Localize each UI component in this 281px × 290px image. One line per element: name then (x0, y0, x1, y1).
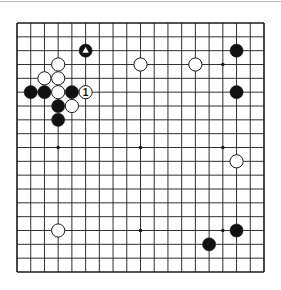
star-point (56, 146, 60, 150)
go-board: 1 (0, 0, 281, 290)
white-stone (52, 224, 65, 237)
white-stone (52, 58, 65, 71)
white-stone (52, 86, 65, 99)
star-point (221, 63, 225, 67)
white-stone (134, 58, 147, 71)
star-point (139, 146, 143, 150)
white-stone (38, 72, 51, 85)
white-stone (52, 72, 65, 85)
black-stone (230, 86, 243, 99)
white-stone: 1 (79, 86, 92, 99)
black-stone (230, 44, 243, 57)
star-point (139, 229, 143, 233)
star-point (221, 229, 225, 233)
white-stone (65, 99, 78, 112)
black-stone (230, 224, 243, 237)
move-number-label: 1 (83, 87, 89, 98)
black-stone (52, 99, 65, 112)
black-stone (52, 113, 65, 126)
black-stone (65, 86, 78, 99)
white-stone (189, 58, 202, 71)
black-stone (79, 44, 92, 57)
star-point (221, 146, 225, 150)
black-stone (38, 86, 51, 99)
black-stone (203, 238, 216, 251)
black-stone (24, 86, 37, 99)
white-stone (230, 155, 243, 168)
